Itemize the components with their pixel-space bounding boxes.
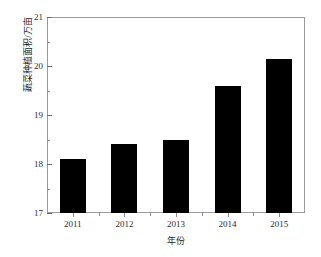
x-tick-mark: [73, 213, 74, 217]
bar-2015: [266, 59, 292, 213]
y-tick-mark: [47, 115, 52, 116]
x-tick-mark: [124, 213, 125, 217]
y-minor-tick-mark: [47, 189, 50, 190]
x-axis-title: 年份: [47, 234, 305, 247]
y-tick-mark: [47, 66, 52, 67]
x-tick-mark: [176, 213, 177, 217]
x-boundary-tick-mark: [202, 213, 203, 216]
x-boundary-tick-mark: [99, 213, 100, 216]
y-minor-tick-mark: [47, 140, 50, 141]
bar-2013: [163, 140, 189, 214]
y-axis-title: 蔬菜种植面积/万亩: [21, 0, 34, 130]
bar-2011: [60, 159, 86, 213]
y-tick-label: 17: [34, 209, 43, 218]
x-boundary-tick-mark: [253, 213, 254, 216]
x-tick-label: 2011: [53, 219, 93, 229]
x-tick-label: 2012: [104, 219, 144, 229]
bar-2012: [111, 144, 137, 213]
y-tick-mark: [47, 17, 52, 18]
y-tick-label: 18: [34, 160, 43, 169]
x-tick-label: 2013: [156, 219, 196, 229]
bars-layer: [47, 17, 305, 213]
chart-figure: 17 18 19 20 21 蔬菜种植面积/万亩 2011 2012 2013 …: [0, 0, 321, 257]
y-tick-label: 20: [34, 62, 43, 71]
y-minor-tick-mark: [47, 91, 50, 92]
y-tick-mark: [47, 164, 52, 165]
x-tick-label: 2015: [259, 219, 299, 229]
x-tick-mark: [228, 213, 229, 217]
bar-2014: [215, 86, 241, 213]
y-minor-tick-mark: [47, 42, 50, 43]
x-tick-mark: [279, 213, 280, 217]
x-tick-label: 2014: [208, 219, 248, 229]
x-boundary-tick-mark: [150, 213, 151, 216]
y-tick-label: 19: [34, 111, 43, 120]
y-tick-label: 21: [34, 13, 43, 22]
